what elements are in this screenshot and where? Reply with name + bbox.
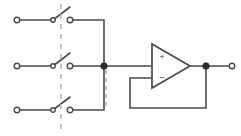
summing-junction-node xyxy=(101,63,107,69)
input-terminal-1-left[interactable] xyxy=(14,17,20,23)
pole-terminal-1-right[interactable] xyxy=(67,17,73,23)
output-terminal[interactable] xyxy=(229,63,235,69)
input-terminal-2-left[interactable] xyxy=(14,63,20,69)
pole-terminal-2-right[interactable] xyxy=(67,63,73,69)
top-bus-wire xyxy=(72,20,104,66)
circuit-diagram-canvas: + – xyxy=(0,0,241,136)
switch-pivot-1[interactable] xyxy=(51,18,55,22)
opamp-plus-input-label: + xyxy=(159,52,164,62)
output-node xyxy=(203,63,209,69)
circuit-schematic: + – xyxy=(0,0,241,136)
input-terminal-3-left[interactable] xyxy=(14,107,20,113)
bottom-bus-wire xyxy=(72,66,104,110)
switch-pivot-3[interactable] xyxy=(51,108,55,112)
opamp-minus-input-label: – xyxy=(159,72,164,82)
switch-pivot-2[interactable] xyxy=(51,64,55,68)
opamp-triangle[interactable] xyxy=(152,44,190,88)
pole-terminal-3-right[interactable] xyxy=(67,107,73,113)
